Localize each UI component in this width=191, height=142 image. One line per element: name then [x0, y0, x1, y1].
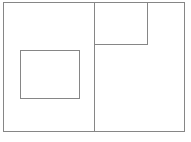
- diagram-canvas: [0, 0, 191, 142]
- left-inner-square: [20, 50, 79, 98]
- diagram-svg: [0, 0, 191, 142]
- upper-right-inner-rectangle: [94, 3, 147, 45]
